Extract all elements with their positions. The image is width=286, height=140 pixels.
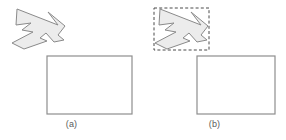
empty-rectangle-a <box>47 56 132 114</box>
caption-b: (b) <box>143 119 286 129</box>
arrow-polygon-b <box>155 9 208 49</box>
arrow-polygon-a <box>12 9 65 49</box>
panel-a: (a) <box>0 0 143 140</box>
panel-b: (b) <box>143 0 286 140</box>
caption-a: (a) <box>0 119 143 129</box>
empty-rectangle-b <box>197 56 275 114</box>
figure-root: (a) (b) <box>0 0 286 140</box>
